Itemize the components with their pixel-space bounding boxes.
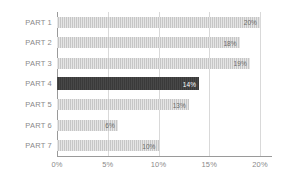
bar-1[interactable]: 20%: [57, 17, 260, 28]
bar-row: 18%: [57, 33, 260, 54]
category-label-6: PART 6: [25, 115, 52, 136]
bar-row: 19%: [57, 53, 260, 74]
category-label-7: PART 7: [25, 135, 52, 156]
bar-value-label-4: 14%: [183, 80, 196, 87]
bar-3[interactable]: 19%: [57, 58, 250, 69]
x-tick-label-4: 20%: [252, 160, 268, 169]
bar-value-label-2: 18%: [223, 39, 236, 46]
bar-value-label-5: 13%: [173, 101, 186, 108]
bar-row: 10%: [57, 135, 260, 156]
bar-row: 14%: [57, 74, 260, 95]
category-label-4: PART 4: [25, 74, 52, 95]
category-label-3: PART 3: [25, 53, 52, 74]
bar-value-label-7: 10%: [142, 142, 155, 149]
gridline-20: [260, 12, 261, 156]
bar-2[interactable]: 18%: [57, 37, 240, 48]
plot-area: 20%18%19%14%13%6%10%: [57, 12, 260, 156]
bar-7[interactable]: 10%: [57, 140, 159, 151]
category-axis: PART 1PART 2PART 3PART 4PART 5PART 6PART…: [0, 12, 52, 156]
x-axis-tick-labels: 0%5%10%15%20%: [0, 160, 290, 176]
bar-4[interactable]: 14%: [57, 77, 199, 90]
bar-rows: 20%18%19%14%13%6%10%: [57, 12, 260, 156]
category-label-1: PART 1: [25, 12, 52, 33]
x-tick-label-0: 0%: [51, 160, 62, 169]
category-label-5: PART 5: [25, 94, 52, 115]
bar-value-label-1: 20%: [244, 19, 257, 26]
bar-value-label-6: 6%: [105, 122, 115, 129]
bar-chart: 20%18%19%14%13%6%10% PART 1PART 2PART 3P…: [0, 0, 290, 189]
bar-row: 6%: [57, 115, 260, 136]
x-tick-label-1: 5%: [102, 160, 113, 169]
bar-6[interactable]: 6%: [57, 120, 118, 131]
bar-value-label-3: 19%: [234, 60, 247, 67]
category-label-2: PART 2: [25, 33, 52, 54]
bar-row: 20%: [57, 12, 260, 33]
bar-row: 13%: [57, 94, 260, 115]
x-tick-label-2: 10%: [151, 160, 167, 169]
x-tick-label-3: 15%: [201, 160, 217, 169]
bar-5[interactable]: 13%: [57, 99, 189, 110]
x-axis-line: [57, 156, 272, 157]
